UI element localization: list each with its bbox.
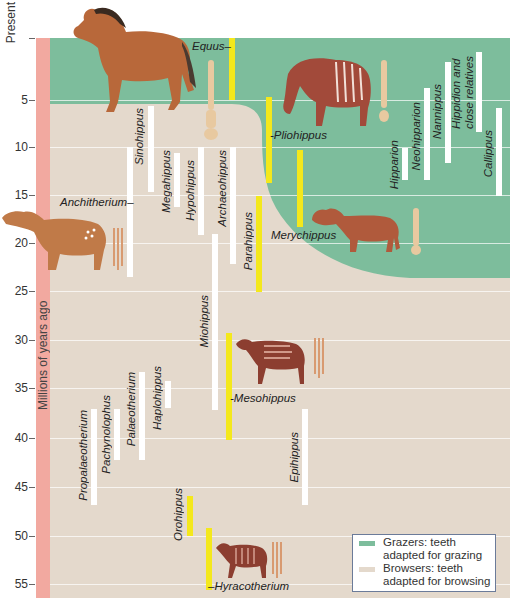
merychippus-foot-bone-icon (409, 206, 423, 258)
legend-grazers-line2: adapted for grazing (383, 549, 482, 562)
pliohippus-horse-illustration (276, 52, 376, 130)
y-tick-label: 40 (15, 431, 28, 445)
label-nannippus: Nannippus (431, 84, 443, 139)
label-miohippus: Miohippus (198, 295, 210, 347)
hyracotherium-illustration (214, 540, 270, 580)
pliohippus-foot-bone-icon (377, 58, 391, 124)
y-tick-label: 5 (21, 93, 28, 107)
tick-mark (29, 147, 35, 148)
label-hippidion: Hippidion andclose relatives (450, 56, 476, 129)
label-callippus: Callippus (482, 130, 494, 177)
bar-hypohippus (198, 147, 204, 235)
mesohippus-foot-bone-icon (312, 336, 326, 382)
gridline-45 (50, 487, 510, 488)
y-tick-label: 10 (15, 140, 28, 154)
bar-callippus (496, 108, 502, 196)
bar-parahippus (256, 196, 262, 292)
bar-haplohippus (165, 381, 171, 408)
gridline-25 (50, 291, 510, 292)
label-hyracotherium: –Hyracotherium (208, 580, 289, 592)
anchitherium-horse-illustration (0, 204, 110, 274)
y-tick-present: Present (4, 2, 18, 43)
label-haplohippus: Haplohippus (151, 366, 163, 430)
tick-mark (29, 487, 35, 488)
tick-mark (29, 100, 35, 101)
label-hypohippus: Hypohippus (184, 160, 196, 221)
label-megahippus: Megahippus (160, 150, 172, 213)
tick-mark (29, 340, 35, 341)
label-pliohippus: -Pliohippus (270, 129, 327, 141)
tick-mark (29, 195, 35, 196)
tick-mark (29, 388, 35, 389)
bar-hipparion (402, 148, 408, 180)
y-tick-label: 45 (15, 480, 28, 494)
y-tick-label: 25 (15, 284, 28, 298)
label-hipparion: Hipparion (388, 140, 400, 189)
y-tick-label: 55 (15, 577, 28, 591)
equus-horse-illustration (64, 2, 199, 117)
equus-foot-bone-icon (200, 56, 222, 142)
bar-neohipparion (424, 88, 430, 180)
tick-mark (29, 536, 35, 537)
bar-archaeohippus (230, 147, 236, 264)
bar-merychippus (297, 150, 303, 227)
y-tick-label: 15 (15, 188, 28, 202)
mesohippus-horse-illustration (234, 332, 310, 388)
legend-swatch-grazers (359, 541, 375, 546)
anchitherium-foot-bone-icon (110, 226, 126, 274)
legend-browsers-line1: Browsers: teeth (383, 562, 463, 575)
bar-propalaeotherium (91, 409, 97, 505)
label-mesohippus: -Mesohippus (230, 392, 296, 404)
legend-browsers-line2: adapted for browsing (383, 575, 490, 588)
gridline-35 (50, 388, 510, 389)
label-propalaeotherium: Propalaeotherium (77, 410, 89, 501)
legend-swatch-browsers (359, 567, 375, 572)
gridline-10 (50, 147, 510, 148)
y-tick-label: 50 (15, 529, 28, 543)
bar-orohippus (187, 496, 193, 536)
bar-epihippus (302, 409, 308, 505)
bar-megahippus (174, 153, 180, 207)
horse-evolution-chart: Millions of years ago Present 5 10 15 20… (0, 0, 510, 609)
bar-palaeotherium (139, 372, 145, 460)
tick-mark (29, 438, 35, 439)
y-tick-label: 30 (15, 333, 28, 347)
bar-miohippus (212, 234, 218, 410)
label-epihippus: Epihippus (288, 432, 300, 483)
label-orohippus: Orohippus (172, 488, 184, 541)
bar-sinohippus (148, 106, 154, 192)
label-pachynolophus: Pachynolophus (100, 395, 112, 474)
label-neohipparion: Neohipparion (410, 102, 422, 170)
tick-mark (29, 38, 35, 39)
merychippus-horse-illustration (308, 198, 408, 254)
label-archaeohippus: Archaeohippus (216, 150, 228, 227)
bar-pachynolophus (114, 409, 120, 460)
tick-mark (29, 291, 35, 292)
bar-mesohippus (226, 333, 232, 440)
legend: Grazers: teeth adapted for grazing Brows… (352, 534, 496, 592)
label-palaeotherium: Palaeotherium (125, 372, 137, 446)
legend-grazers-line1: Grazers: teeth (383, 536, 456, 549)
label-parahippus: Parahippus (242, 212, 254, 270)
bar-anchitherium (127, 147, 133, 277)
bar-hippidion (476, 52, 482, 132)
y-tick-label: 35 (15, 381, 28, 395)
hyracotherium-foot-bone-icon (270, 540, 284, 580)
tick-mark (29, 584, 35, 585)
